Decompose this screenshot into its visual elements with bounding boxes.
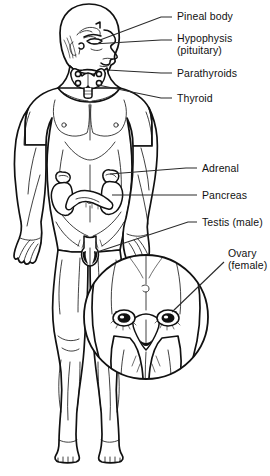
label-ovary-female-line2: (female) — [228, 260, 267, 272]
label-pineal-body: Pineal body — [177, 11, 233, 23]
testis-icon — [82, 236, 99, 266]
label-adrenal: Adrenal — [202, 163, 239, 175]
label-hypophysis-line2: (pituitary) — [177, 45, 232, 57]
label-thyroid-line1: Thyroid — [177, 92, 213, 104]
label-parathyroids: Parathyroids — [177, 68, 237, 80]
body-figure — [14, 4, 157, 463]
label-adrenal-line1: Adrenal — [202, 162, 239, 174]
label-ovary-female: Ovary (female) — [228, 248, 267, 271]
leg-left-outline — [53, 250, 88, 463]
trachea-icon — [84, 88, 92, 98]
label-parathyroids-line1: Parathyroids — [177, 67, 237, 79]
label-testis-male: Testis (male) — [202, 217, 263, 229]
label-thyroid: Thyroid — [177, 93, 213, 105]
leader-parathyroids — [107, 70, 172, 73]
label-hypophysis-line1: Hypophysis — [177, 32, 232, 44]
label-pineal-body-line1: Pineal body — [177, 10, 233, 22]
endocrine-diagram: Pineal body Hypophysis (pituitary) Parat… — [0, 0, 270, 476]
label-pancreas-line1: Pancreas — [202, 189, 247, 201]
label-ovary-female-line1: Ovary — [228, 247, 257, 259]
label-testis-male-line1: Testis (male) — [202, 216, 263, 228]
label-pancreas: Pancreas — [202, 190, 247, 202]
label-hypophysis: Hypophysis (pituitary) — [177, 33, 232, 56]
